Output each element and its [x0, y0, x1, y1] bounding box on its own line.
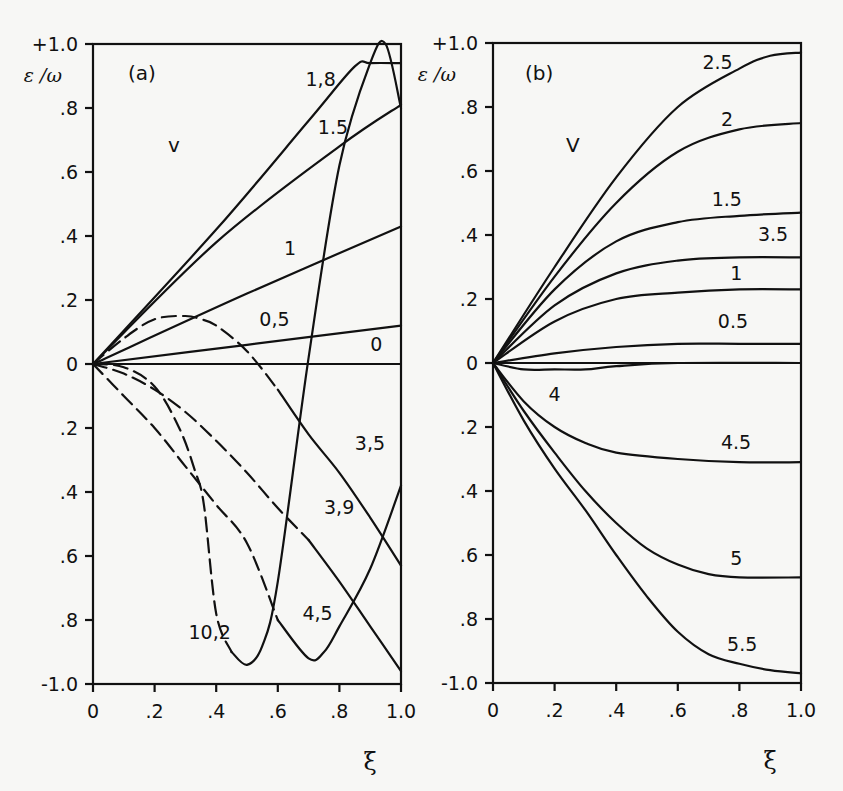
y-tick-label: .2: [460, 416, 478, 438]
curve-label: 2: [721, 108, 733, 130]
curve-label: 1: [284, 237, 296, 259]
y-tick-label: .4: [460, 480, 478, 502]
y-tick-label: .6: [460, 544, 478, 566]
curve-label: 3,9: [324, 496, 354, 518]
y-tick-label: +1.0: [32, 33, 78, 55]
y-tick-label: .8: [460, 608, 478, 630]
panel-label: (b): [525, 61, 553, 85]
x-tick-label: 1.0: [386, 700, 416, 722]
x-tick-label: 1.0: [786, 699, 816, 721]
y-tick-label: .2: [460, 288, 478, 310]
curve-label: 0,5: [259, 308, 289, 330]
curve-5-5: [493, 363, 801, 673]
curve-label: 0.5: [718, 310, 748, 332]
curve-label: 0: [370, 333, 382, 355]
curve-2-5: [493, 53, 801, 363]
y-axis-title: ε /ω: [24, 64, 62, 86]
y-tick-label: .4: [460, 224, 478, 246]
curve-1: [493, 289, 801, 363]
curve-label: 4: [548, 383, 560, 405]
curve-label: 3.5: [758, 223, 788, 245]
x-tick-label: .6: [669, 699, 687, 721]
y-tick-label: 0: [466, 352, 478, 374]
y-axis-title: ε /ω: [418, 63, 456, 85]
figure: +1.0.8.6.4.20.2.4.6.8-1.00.2.4.6.81.0ε /…: [0, 0, 843, 791]
curve-2: [493, 123, 801, 363]
y-tick-label: .8: [460, 96, 478, 118]
x-tick-label: .4: [207, 700, 225, 722]
x-tick-label: .2: [546, 699, 564, 721]
curve-5: [493, 363, 801, 578]
panel-a: +1.0.8.6.4.20.2.4.6.8-1.00.2.4.6.81.0ε /…: [24, 33, 416, 776]
y-tick-label: -1.0: [441, 672, 478, 694]
curve-label: 1,8: [306, 68, 336, 90]
x-tick-label: .8: [730, 699, 748, 721]
y-tick-label: .6: [60, 161, 78, 183]
y-tick-label: .6: [60, 545, 78, 567]
curve-dashed-3-9: [93, 364, 309, 540]
y-tick-label: +1.0: [432, 32, 478, 54]
curve-3-5: [493, 257, 801, 363]
curve-1: [93, 226, 401, 364]
x-tick-label: 0: [87, 700, 99, 722]
y-tick-label: 0: [66, 353, 78, 375]
curve-1-5: [93, 105, 401, 364]
parameter-label: V: [566, 133, 580, 157]
parameter-label: v: [168, 133, 180, 157]
y-tick-label: .2: [60, 289, 78, 311]
x-axis-title: ξ: [364, 748, 377, 776]
curve-label: 1.5: [712, 188, 742, 210]
curve-label: 5.5: [727, 633, 757, 655]
y-tick-label: .4: [60, 481, 78, 503]
curve-label: 2.5: [702, 51, 732, 73]
curve-label: 1: [730, 262, 742, 284]
curve-1-5: [493, 213, 801, 363]
curve-label: 4,5: [302, 602, 332, 624]
x-tick-label: .2: [146, 700, 164, 722]
y-tick-label: .6: [460, 160, 478, 182]
curve-label: 1.5: [318, 116, 348, 138]
panel-label: (a): [128, 61, 156, 85]
curve-dashed-4-5: [93, 364, 278, 620]
y-tick-label: .8: [60, 609, 78, 631]
y-tick-label: -1.0: [41, 673, 78, 695]
y-tick-label: .8: [60, 97, 78, 119]
curve-0-5: [493, 344, 801, 363]
curve-label: 5: [730, 547, 742, 569]
y-tick-label: .4: [60, 225, 78, 247]
curve-dashed-10-2: [93, 364, 232, 652]
curve-label: 4.5: [721, 431, 751, 453]
curve-label: 10,2: [188, 621, 230, 643]
panel-b: +1.0.8.6.4.20.2.4.6.8-1.00.2.4.6.81.0ε /…: [418, 32, 816, 775]
x-tick-label: .8: [330, 700, 348, 722]
x-tick-label: .4: [607, 699, 625, 721]
y-tick-label: .2: [60, 417, 78, 439]
curve-0-5: [93, 326, 401, 364]
x-tick-label: .6: [269, 700, 287, 722]
x-axis-title: ξ: [764, 747, 777, 775]
x-tick-label: 0: [487, 699, 499, 721]
curve-label: 3,5: [355, 432, 385, 454]
